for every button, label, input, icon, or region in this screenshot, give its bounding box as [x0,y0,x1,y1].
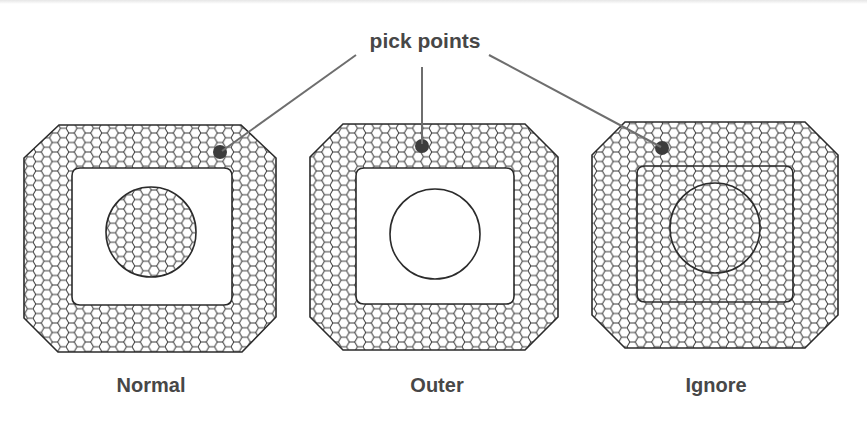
caption-ignore: Ignore [685,374,746,397]
ignore-hatched-area [592,122,838,348]
normal-pick-point[interactable] [213,145,227,159]
caption-outer: Outer [410,374,463,397]
pick-points-callout: pick points [370,29,481,53]
panel-ignore [592,122,838,348]
panel-normal [24,125,276,352]
caption-normal: Normal [117,374,186,397]
normal-island-circle [106,187,196,277]
panel-outer [310,124,558,350]
outer-island-circle [390,189,480,279]
ignore-pick-point[interactable] [655,141,669,155]
hatch-style-diagram [0,0,867,425]
